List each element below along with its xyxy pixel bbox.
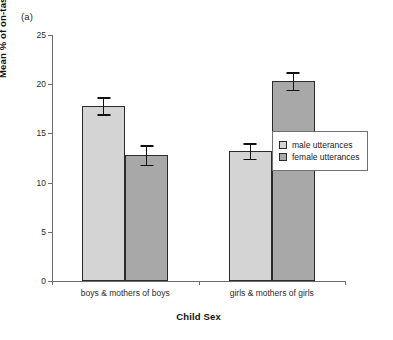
y-tick-mark: [48, 232, 52, 233]
bar-chart-figure: (a) Mean % of on-task utterances 0510152…: [0, 0, 393, 340]
y-tick-mark: [48, 183, 52, 184]
legend-swatch-male-icon: [279, 141, 287, 149]
x-tick-label: girls & mothers of girls: [230, 288, 314, 298]
legend-label-male: male utterances: [292, 140, 352, 150]
error-bar: [103, 97, 104, 114]
error-bar-cap-lower: [140, 165, 153, 166]
error-bar: [293, 72, 294, 90]
error-bar-cap-lower: [244, 159, 257, 160]
error-bar-cap-upper: [287, 72, 300, 73]
y-axis-title: Mean % of on-task utterances: [0, 0, 8, 78]
bar-female-group2: [272, 81, 315, 281]
bar-female-group1: [125, 155, 168, 281]
legend-item-male[interactable]: male utterances: [279, 140, 360, 150]
error-bar-cap-lower: [97, 114, 110, 115]
x-tick-label: boys & mothers of boys: [81, 288, 170, 298]
chart-legend: male utterances female utterances: [272, 131, 368, 171]
error-bar: [146, 145, 147, 165]
error-bar-cap-upper: [140, 145, 153, 146]
bar-male-group2: [229, 151, 272, 281]
error-bar: [250, 143, 251, 159]
error-bar-cap-upper: [244, 143, 257, 144]
y-tick-mark: [48, 133, 52, 134]
bar-male-group1: [82, 106, 125, 281]
legend-swatch-female-icon: [279, 153, 287, 161]
panel-label: (a): [21, 11, 33, 22]
y-tick-mark: [48, 84, 52, 85]
legend-label-female: female utterances: [292, 152, 360, 162]
y-tick-mark: [48, 35, 52, 36]
error-bar-cap-upper: [97, 97, 110, 98]
x-tick-mark: [52, 281, 53, 285]
x-tick-mark: [345, 281, 346, 285]
legend-item-female[interactable]: female utterances: [279, 152, 360, 162]
error-bar-cap-lower: [287, 90, 300, 91]
x-tick-mark: [199, 281, 200, 285]
x-axis-title: Child Sex: [52, 311, 345, 322]
